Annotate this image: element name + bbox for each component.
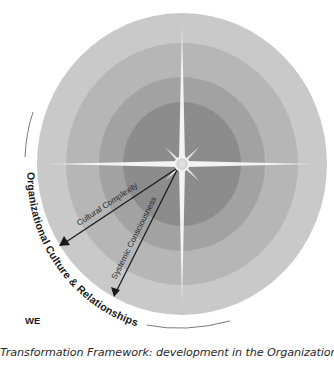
quadrant-diagram: Cultural Complexity Systemic Consciousne… <box>0 0 334 368</box>
left-arc <box>25 112 33 157</box>
figure-caption: Transformation Framework: development in… <box>0 346 334 359</box>
quadrant-label-we: WE <box>25 315 40 326</box>
bottom-arc <box>147 321 230 328</box>
